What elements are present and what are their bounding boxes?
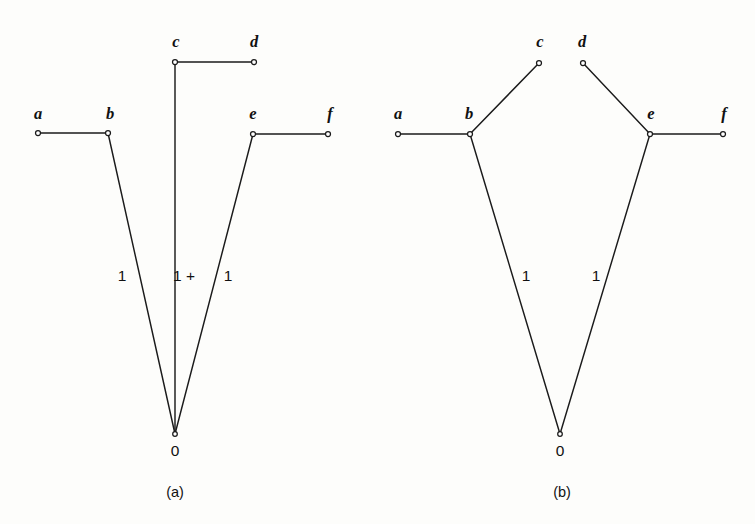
edge-b-root (470, 134, 560, 434)
node-root (558, 432, 563, 437)
panel-a-edges (38, 62, 328, 434)
edge-label-label-middle: 1 + (173, 267, 195, 284)
node-label-e: e (249, 104, 256, 123)
panel-a: abcdef011 +1(a) (34, 32, 334, 500)
node-label-b: b (106, 104, 114, 123)
edge-label-label-left: 1 (118, 267, 127, 284)
figure-root: abcdef011 +1(a)abcdef011(b) (0, 0, 755, 524)
edge-label-label-right: 1 (592, 267, 601, 284)
node-b (106, 131, 111, 136)
node-e (648, 132, 653, 137)
panel-b-nodes: abcdef0 (394, 32, 728, 459)
node-a (36, 131, 41, 136)
node-label-c: c (172, 32, 180, 51)
edge-b-c (470, 63, 539, 134)
node-label-f: f (327, 104, 334, 123)
node-label-root: 0 (556, 442, 565, 459)
node-root (173, 432, 178, 437)
node-label-root: 0 (171, 442, 180, 459)
node-label-d: d (250, 32, 259, 51)
tree-diagram-figure: abcdef011 +1(a)abcdef011(b) (0, 0, 755, 524)
node-d (252, 60, 257, 65)
node-label-a: a (394, 104, 402, 123)
caption-panel-b: (b) (553, 484, 571, 500)
node-f (326, 132, 331, 137)
node-label-b: b (465, 104, 473, 123)
node-label-a: a (34, 104, 42, 123)
diagram-content: abcdef011 +1(a)abcdef011(b) (34, 32, 728, 500)
node-b (468, 132, 473, 137)
edge-e-root (560, 134, 650, 434)
panel-a-nodes: abcdef0 (34, 32, 334, 459)
edge-d-e (583, 63, 650, 134)
node-label-e: e (647, 104, 654, 123)
node-f (721, 132, 726, 137)
panel-b-edges (398, 63, 723, 434)
node-label-d: d (578, 32, 587, 51)
node-label-c: c (536, 32, 544, 51)
caption-panel-a: (a) (166, 484, 184, 500)
node-c (173, 60, 178, 65)
node-label-f: f (721, 104, 728, 123)
edge-label-label-right: 1 (224, 267, 233, 284)
node-e (251, 132, 256, 137)
node-c (537, 61, 542, 66)
edge-label-label-left: 1 (522, 267, 531, 284)
panel-b-edge-labels: 11 (522, 267, 601, 284)
edge-e-root (175, 134, 253, 434)
panel-b: abcdef011(b) (394, 32, 728, 500)
node-d (581, 61, 586, 66)
node-a (396, 132, 401, 137)
